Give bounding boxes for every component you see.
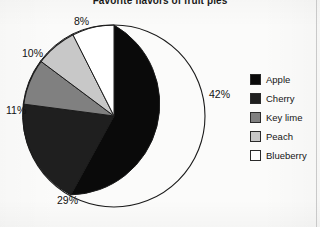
- legend-item-peach[interactable]: Peach: [250, 127, 316, 146]
- chart-title: Favorite flavors of fruit pies: [0, 0, 320, 6]
- legend-swatch-blueberry: [250, 150, 261, 161]
- legend-item-cherry[interactable]: Cherry: [250, 89, 316, 108]
- legend-swatch-apple: [250, 74, 261, 85]
- legend-item-apple[interactable]: Apple: [250, 70, 316, 89]
- slice-label-peach: 10%: [22, 47, 43, 59]
- legend-label-key-lime: Key lime: [266, 113, 302, 123]
- legend-label-cherry: Cherry: [266, 94, 295, 104]
- legend-item-blueberry[interactable]: Blueberry: [250, 146, 316, 165]
- slice-label-apple: 42%: [209, 88, 230, 100]
- pie-chart: [22, 24, 206, 208]
- legend-label-peach: Peach: [266, 132, 293, 142]
- scan-frame-rule: [316, 0, 317, 227]
- legend-swatch-peach: [250, 131, 261, 142]
- legend-swatch-key-lime: [250, 112, 261, 123]
- slice-label-cherry: 29%: [57, 194, 78, 206]
- legend-item-key-lime[interactable]: Key lime: [250, 108, 316, 127]
- legend-label-apple: Apple: [266, 75, 290, 85]
- slice-label-key-lime: 11%: [6, 104, 26, 116]
- chart-legend: Apple Cherry Key lime Peach Blueberry: [250, 70, 316, 165]
- slice-label-blueberry: 8%: [74, 15, 89, 27]
- legend-label-blueberry: Blueberry: [266, 151, 307, 161]
- legend-swatch-cherry: [250, 93, 261, 104]
- pie-svg: [22, 24, 206, 208]
